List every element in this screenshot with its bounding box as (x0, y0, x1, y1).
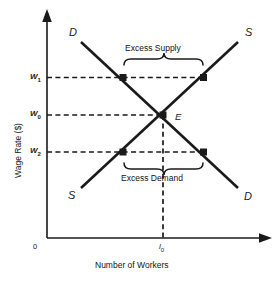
marker-w1-demand (120, 74, 127, 81)
x-axis-title: Number of Workers (95, 261, 169, 270)
supply-label-top-right: S (245, 27, 252, 38)
demand-label-bottom-right: D (244, 191, 252, 202)
excess-demand-label: Excess Demand (121, 174, 183, 183)
y-tick-w0-letter: W (30, 109, 38, 118)
demand-label-top-left: D (69, 27, 77, 38)
y-tick-w2-letter: W (30, 146, 38, 155)
supply-demand-diagram: Wage Rate ($) Number of Workers 0 W1 W0 … (0, 0, 279, 281)
excess-supply-label: Excess Supply (125, 44, 181, 53)
marker-w2-supply (120, 149, 127, 156)
excess-supply-brace (124, 53, 203, 65)
supply-label-bottom-left: S (68, 190, 75, 201)
marker-w1-supply (200, 74, 207, 81)
y-tick-w0-sub: 0 (38, 114, 41, 120)
y-tick-w2: W2 (30, 147, 41, 157)
x-tick-l0-sub: 0 (161, 247, 164, 253)
y-tick-w1-sub: 1 (38, 77, 41, 83)
origin-label: 0 (33, 243, 37, 251)
y-axis-title: Wage Rate ($) (14, 123, 23, 178)
x-axis-arrow-icon (259, 233, 272, 243)
x-tick-l0: l0 (159, 243, 164, 253)
y-tick-w1-letter: W (30, 72, 38, 81)
marker-w2-demand (200, 149, 207, 156)
y-axis-arrow-icon (42, 9, 52, 22)
y-tick-w0: W0 (30, 110, 41, 120)
y-tick-w1: W1 (30, 73, 41, 83)
marker-equilibrium (160, 112, 167, 119)
equilibrium-label: E (175, 112, 181, 122)
y-tick-w2-sub: 2 (38, 151, 41, 157)
